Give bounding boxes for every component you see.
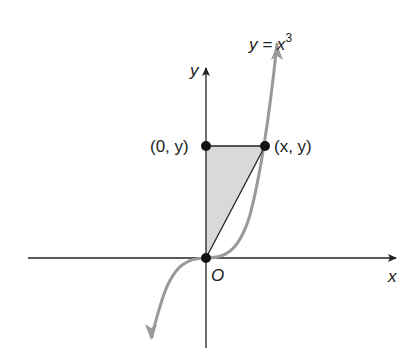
point-0-y-label: (0, y) — [150, 137, 189, 156]
point-0-y — [201, 141, 211, 151]
origin-label: O — [211, 266, 224, 285]
diagram-canvas: y = x3 y x O (0, y) (x, y) — [0, 0, 419, 358]
point-x-y — [260, 141, 270, 151]
y-axis-label: y — [189, 61, 200, 80]
point-x-y-label: (x, y) — [274, 137, 312, 156]
point-origin — [201, 253, 211, 263]
curve-arrow-bottom-icon — [145, 324, 157, 340]
x-axis-label: x — [387, 267, 397, 286]
curve-label: y = x3 — [248, 31, 292, 54]
